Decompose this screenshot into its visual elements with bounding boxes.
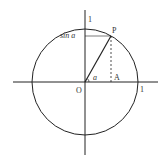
sin-label: sin a (60, 31, 75, 40)
x-axis-one-label: 1 (140, 85, 144, 94)
y-axis-one-label: 1 (88, 15, 92, 24)
radius-op (85, 36, 111, 82)
angle-label: a (93, 73, 97, 82)
point-a-label: A (114, 73, 120, 82)
origin-label: O (76, 86, 82, 95)
point-p-label: P (112, 26, 117, 35)
unit-circle-diagram: 1 P sin a a A O 1 (0, 0, 163, 164)
angle-arc (87, 79, 89, 82)
